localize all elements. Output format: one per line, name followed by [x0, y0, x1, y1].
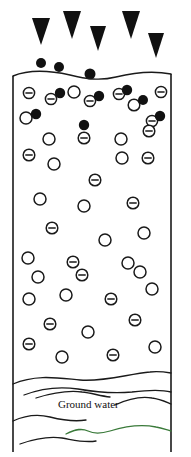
open-particle-icon: [149, 341, 161, 353]
open-particle-icon: [48, 158, 60, 170]
diagram-canvas: Ground water: [0, 0, 191, 457]
negative-charge-particle-icon: [23, 338, 35, 350]
filled-particle-icon: [94, 91, 104, 101]
open-particle-icon: [32, 271, 44, 283]
particle-outline: [99, 234, 111, 246]
particle-outline: [22, 252, 34, 264]
open-particle-icon: [68, 86, 80, 98]
particle-outline: [122, 257, 134, 269]
open-particle-icon: [34, 193, 46, 205]
filled-particle-icon: [31, 109, 41, 119]
negative-charge-particle-icon: [78, 132, 90, 144]
open-particle-icon: [20, 112, 32, 124]
open-particle-icon: [22, 252, 34, 264]
negative-charge-particle-icon: [89, 174, 101, 186]
particle-outline: [34, 193, 46, 205]
filled-particle-icon: [79, 120, 89, 130]
particle-outline: [20, 112, 32, 124]
open-particle-icon: [115, 133, 127, 145]
particle-outline: [48, 158, 60, 170]
open-particle-icon: [116, 152, 128, 164]
open-particle-icon: [138, 227, 150, 239]
open-particle-icon: [56, 351, 68, 363]
negative-charge-particle-icon: [45, 93, 56, 104]
particle-outline: [32, 271, 44, 283]
open-particle-icon: [82, 326, 94, 338]
negative-charge-particle-icon: [142, 152, 154, 164]
filled-particle-icon: [54, 62, 64, 72]
diagram-background: [0, 0, 191, 457]
particle-outline: [56, 351, 68, 363]
particle-outline: [134, 266, 146, 278]
negative-charge-particle-icon: [67, 256, 79, 268]
particle-outline: [78, 200, 90, 212]
open-particle-icon: [43, 133, 55, 145]
open-particle-icon: [23, 293, 35, 305]
filled-particle-icon: [122, 85, 132, 95]
open-particle-icon: [134, 266, 146, 278]
soil-groundwater-diagram: Ground water: [0, 0, 191, 457]
negative-charge-particle-icon: [44, 318, 56, 330]
negative-charge-particle-icon: [23, 149, 35, 161]
filled-particle-icon: [36, 58, 46, 68]
particle-outline: [138, 227, 150, 239]
open-particle-icon: [60, 289, 72, 301]
filled-particle-icon: [155, 111, 165, 121]
negative-charge-particle-icon: [105, 293, 117, 305]
particle-outline: [23, 293, 35, 305]
open-particle-icon: [146, 283, 158, 295]
particle-outline: [60, 289, 72, 301]
negative-charge-particle-icon: [76, 269, 88, 281]
particle-outline: [146, 283, 158, 295]
open-particle-icon: [122, 257, 134, 269]
negative-charge-particle-icon: [155, 86, 166, 97]
open-particle-icon: [128, 99, 140, 111]
particle-outline: [68, 86, 80, 98]
open-particle-icon: [78, 200, 90, 212]
particle-outline: [82, 326, 94, 338]
particle-outline: [43, 133, 55, 145]
negative-charge-particle-icon: [23, 87, 34, 98]
negative-charge-particle-icon: [127, 197, 139, 209]
particle-outline: [149, 341, 161, 353]
filled-particle-icon: [138, 95, 148, 105]
negative-charge-particle-icon: [129, 314, 141, 326]
negative-charge-particle-icon: [143, 125, 155, 137]
filled-particle-icon: [55, 88, 65, 98]
particle-outline: [115, 133, 127, 145]
particle-outline: [128, 99, 140, 111]
negative-charge-particle-icon: [107, 349, 119, 361]
ground-water-label: Ground water: [58, 398, 119, 410]
particle-outline: [116, 152, 128, 164]
open-particle-icon: [99, 234, 111, 246]
negative-charge-particle-icon: [46, 222, 58, 234]
